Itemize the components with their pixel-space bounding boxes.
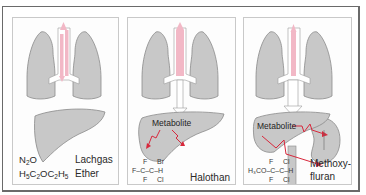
metabolite-label: Metabolite (152, 118, 191, 128)
name-methoxyfluran-line1: Methoxy- (310, 159, 351, 169)
methoxyflurane-structure: F Cl H₃CO–C–C–H F Cl (248, 158, 318, 185)
right-lung-icon (190, 32, 218, 99)
name-methoxyfluran-line2: fluran (310, 172, 335, 182)
formula-ether: H5C2OC2H5 (19, 169, 68, 179)
halothane-structure: F Br F–C–C–H F Cl (132, 158, 192, 185)
exhale-arrow-icon (60, 22, 67, 30)
metabolite-label: Metabolite (257, 121, 296, 131)
name-lachgas: Lachgas (75, 155, 113, 165)
panel-halothane: Metabolite F Br F–C–C–H F Cl Halothan (127, 17, 236, 185)
right-lung-icon (304, 32, 332, 99)
panel-nitrous-oxide-ether: N2O H5C2OC2H5 Lachgas Ether (12, 17, 119, 185)
exhale-arrow-icon (176, 22, 184, 30)
left-lung-icon (142, 32, 170, 99)
left-lung-icon (256, 32, 284, 99)
left-lung-icon (27, 32, 55, 99)
name-halothan: Halothan (190, 173, 230, 183)
name-ether: Ether (75, 169, 99, 179)
formula-nitrous-oxide: N2O (19, 155, 37, 165)
right-lung-icon (73, 32, 101, 99)
panel-methoxyflurane: Metabolite F Cl H₃CO–C–C–H F Cl Methoxy-… (243, 17, 352, 185)
